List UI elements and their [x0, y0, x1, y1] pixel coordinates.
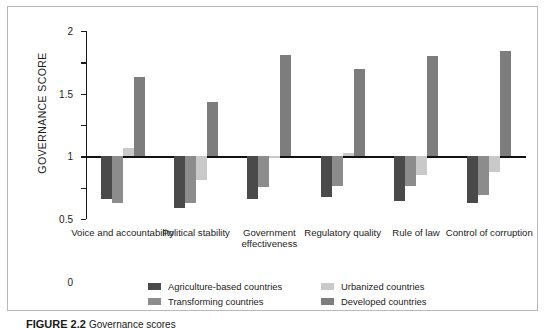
bar-group [379, 31, 452, 219]
bar [134, 77, 145, 157]
bar [467, 156, 478, 203]
legend-item: Developed countries [321, 294, 478, 309]
bar [332, 156, 343, 186]
legend-swatch [321, 283, 334, 290]
bar [354, 69, 365, 157]
y-tick-label: 0.5 [59, 214, 73, 225]
bar [405, 156, 416, 185]
bar [427, 56, 438, 156]
bar-group [453, 31, 526, 219]
y-tick-mark: -1 [81, 219, 86, 220]
bar-group [86, 31, 159, 219]
legend-swatch [148, 298, 161, 305]
y-tick-label: 1.5 [59, 88, 73, 99]
bar [321, 156, 332, 197]
bar [207, 102, 218, 157]
x-axis-category-label: Control of corruption [434, 227, 544, 238]
bar [123, 148, 134, 157]
figure-panel: GOVERNANCE SCORE 21.510.50-0.5-1 Voice a… [7, 6, 538, 311]
bar [269, 156, 280, 157]
legend-label: Transforming countries [168, 296, 264, 307]
legend-label: Developed countries [341, 296, 426, 307]
bar [174, 156, 185, 207]
legend-swatch [321, 298, 334, 305]
y-tick-label: 1 [67, 151, 73, 162]
legend-label: Agriculture-based countries [168, 281, 282, 292]
legend-label: Urbanized countries [341, 281, 424, 292]
legend-item: Agriculture-based countries [148, 279, 305, 294]
figure-caption: FIGURE 2.2 Governance scores [26, 318, 526, 329]
bar [112, 156, 123, 203]
chart-legend: Agriculture-based countriesUrbanized cou… [148, 279, 478, 309]
legend-swatch [148, 283, 161, 290]
plot-area: 21.510.50-0.5-1 Voice and accountability… [86, 31, 526, 219]
bar [343, 153, 354, 157]
y-tick-label: 2 [67, 26, 73, 37]
bar [489, 156, 500, 172]
bar [500, 51, 511, 156]
bar-group [159, 31, 232, 219]
bar [101, 156, 112, 199]
bars-layer [86, 31, 526, 219]
caption-number: FIGURE 2.2 [26, 318, 86, 329]
y-tick-label: 0 [67, 276, 73, 287]
legend-item: Urbanized countries [321, 279, 478, 294]
y-axis-title: GOVERNANCE SCORE [36, 23, 48, 203]
bar-group [306, 31, 379, 219]
bar-group [233, 31, 306, 219]
bar [394, 156, 405, 201]
legend-item: Transforming countries [148, 294, 305, 309]
bar [185, 156, 196, 203]
caption-text: Governance scores [89, 319, 176, 329]
bar [196, 156, 207, 180]
bar [247, 156, 258, 199]
bar [416, 156, 427, 175]
bar [258, 156, 269, 187]
bar [280, 55, 291, 157]
bar [478, 156, 489, 195]
